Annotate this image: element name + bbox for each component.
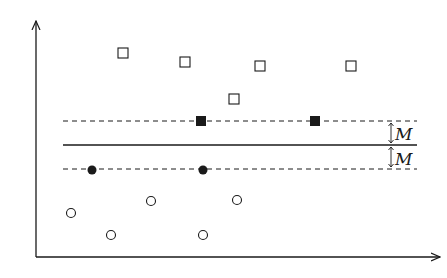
square-point [118, 48, 128, 58]
circle-point [199, 231, 208, 240]
diagram-canvas: M M [0, 0, 447, 278]
circle-point [147, 197, 156, 206]
lower-margin-label: M [394, 149, 413, 169]
support-square-point [196, 116, 206, 126]
circle-point [107, 231, 116, 240]
support-square-point [310, 116, 320, 126]
square-point [229, 94, 239, 104]
upper-margin-label: M [394, 124, 413, 144]
open-squares [118, 48, 356, 104]
support-circle-point [88, 166, 97, 175]
svm-margin-diagram: M M [0, 0, 447, 278]
circle-point [233, 196, 242, 205]
open-circles [67, 196, 242, 240]
support-circle-point [199, 166, 208, 175]
support-circles [88, 166, 208, 175]
circle-point [67, 209, 76, 218]
square-point [346, 61, 356, 71]
square-point [180, 57, 190, 67]
square-point [255, 61, 265, 71]
